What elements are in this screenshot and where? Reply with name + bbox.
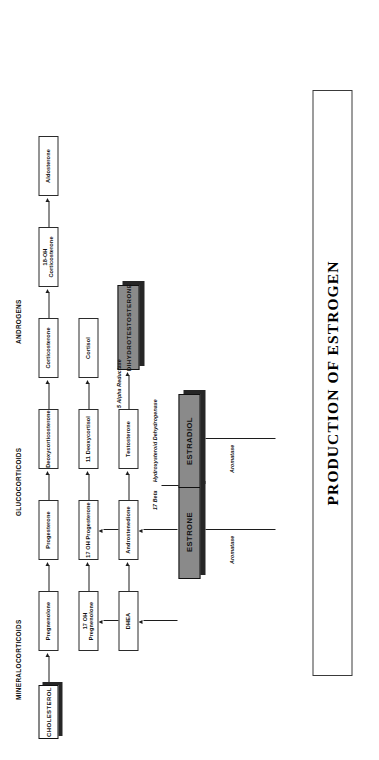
page-title: PRODUCTION OF ESTROGEN <box>323 261 341 506</box>
arrowhead-androstenedione-testosterone <box>125 471 129 475</box>
arrowhead-deoxycorticosterone-corticosterone <box>45 380 49 384</box>
node-17-oh-progesterone: 17 OH Progesterone <box>78 500 98 560</box>
column-heading-mineralocorticoids: MINERALOCORTICOIDS <box>14 619 21 700</box>
edge-corticosterone-18oh-corticosterone <box>48 292 49 318</box>
node-androstenedione: Androstenedione <box>118 500 138 560</box>
arrowhead-dhea-androstenedione <box>125 562 129 566</box>
arrowhead-11-deoxycortisol-cortisol <box>85 380 89 384</box>
edge-18oh-corticosterone-aldosterone <box>48 201 49 227</box>
arrowhead-18oh-corticosterone-aldosterone <box>45 198 49 202</box>
edge-testosterone-estradiol <box>205 438 275 439</box>
arrowhead-pregnenolone-17oh-pregnenolone <box>98 620 102 624</box>
edge-deoxycorticosterone-corticosterone <box>48 383 49 409</box>
edge-pregnenolone-progesterone <box>48 565 49 591</box>
enzyme-label-aromatase-2: Aromatase <box>228 445 234 473</box>
node-17-oh-pregnenolone: 17 OH Pregnenolone <box>78 591 98 651</box>
enzyme-label-5-alpha-reductase: 5 Alpha Reductase <box>115 359 121 408</box>
edge-17oh-progesterone-11-deoxycortisol <box>88 474 89 500</box>
node-estradiol: ESTRADIOL <box>178 394 200 488</box>
edge-cholesterol-pregnenolone <box>48 656 49 685</box>
node-aldosterone: Aldosterone <box>38 136 58 196</box>
column-heading-glucocorticoids: GLUCOCORTICOIDS <box>14 448 21 516</box>
edge-11-deoxycortisol-cortisol <box>88 383 89 409</box>
node-18-oh-corticosterone: 18-OH Corticosterone <box>38 227 58 287</box>
arrowhead-pregnenolone-progesterone <box>45 562 49 566</box>
arrowhead-testosterone-dihydrotestosterone <box>125 372 129 376</box>
enzyme-label-aromatase-1: Aromatase <box>228 536 234 564</box>
edge-testosterone-dihydrotestosterone <box>128 375 129 409</box>
edge-androstenedione-estrone <box>205 529 275 530</box>
edge-dhea-androstenedione <box>128 565 129 591</box>
node-11-deoxycortisol: 11 Deoxycortisol <box>78 409 98 469</box>
node-deoxycorticosterone: Deoxycorticosterone <box>38 409 58 469</box>
arrowhead-17oh-pregnenolone-17oh-progesterone <box>85 562 89 566</box>
diagram-rotation-wrapper: MINERALOCORTICOIDS GLUCOCORTICOIDS ANDRO… <box>0 0 379 760</box>
edge-17oh-progesterone-androstenedione <box>143 529 177 530</box>
arrowhead-corticosterone-18oh-corticosterone <box>45 289 49 293</box>
pathway-diagram-canvas: MINERALOCORTICOIDS GLUCOCORTICOIDS ANDRO… <box>0 0 379 760</box>
edge-progesterone-deoxycorticosterone <box>48 474 49 500</box>
node-estrone: ESTRONE <box>178 485 200 579</box>
enzyme-label-17-beta: 17 Beta <box>151 490 157 510</box>
arrowhead-17oh-progesterone-androstenedione <box>138 529 142 533</box>
node-corticosterone: Corticosterone <box>38 318 58 378</box>
node-dihydrotestosterone: DIHYDROTESTOSTERONE <box>117 285 139 370</box>
node-cortisol: Cortisol <box>78 318 98 378</box>
arrowhead-progesterone-17oh-progesterone <box>98 529 102 533</box>
edge-17oh-pregnenolone-17oh-progesterone <box>88 565 89 591</box>
node-testosterone: Testosterone <box>118 409 138 469</box>
arrowhead-17oh-pregnenolone-dhea <box>138 620 142 624</box>
arrowhead-cholesterol-pregnenolone <box>45 653 49 657</box>
node-cholesterol: CHOLESTEROL <box>38 685 58 739</box>
arrowhead-17oh-progesterone-11-deoxycortisol <box>85 471 89 475</box>
column-heading-androgens: ANDROGENS <box>14 299 21 344</box>
edge-androstenedione-testosterone <box>128 474 129 500</box>
node-progesterone: Progesterone <box>38 500 58 560</box>
arrowhead-progesterone-deoxycorticosterone <box>45 471 49 475</box>
edge-17oh-pregnenolone-dhea <box>143 620 177 621</box>
node-dhea: DHEA <box>118 591 138 651</box>
node-pregnenolone: Pregnenolone <box>38 591 58 651</box>
enzyme-label-hydroxysteroid-dehydrogenase: Hydroxysteroid Dehydrogenase <box>151 399 157 482</box>
title-box: PRODUCTION OF ESTROGEN <box>312 90 352 676</box>
